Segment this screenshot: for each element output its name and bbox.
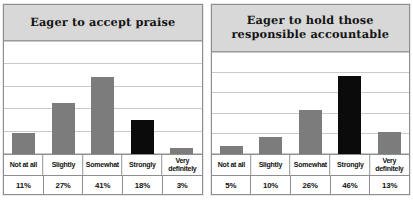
category-label-very-definitely: Very definitely	[164, 155, 201, 175]
axis-table: Not at all Slightly Somewhat Strongly Ve…	[212, 154, 410, 194]
category-label-row: Not at all Slightly Somewhat Strongly Ve…	[4, 155, 202, 176]
category-label-strongly: Strongly	[124, 155, 162, 175]
category-label-very-definitely: Very definitely	[371, 155, 408, 175]
axis-table: Not at all Slightly Somewhat Strongly Ve…	[4, 154, 202, 194]
category-label-slightly: Slightly	[44, 155, 82, 175]
bar-strongly	[338, 76, 361, 154]
chart-title-band: Eager to hold those responsible accounta…	[212, 5, 410, 52]
value-label-very-definitely: 3%	[163, 176, 202, 194]
bar-slot-very-definitely	[370, 52, 410, 154]
bar-somewhat	[299, 110, 322, 154]
chart-title-line-1: Eager to hold those	[247, 13, 374, 27]
bar-group	[4, 41, 202, 154]
bar-slot-somewhat	[83, 41, 123, 154]
bar-somewhat	[91, 77, 114, 154]
plot-area	[4, 41, 202, 154]
bar-group	[212, 52, 410, 154]
value-label-strongly: 46%	[331, 176, 371, 194]
bar-slot-strongly	[330, 52, 370, 154]
chart-title: Eager to accept praise	[24, 16, 181, 30]
chart-title: Eager to hold those responsible accounta…	[225, 14, 395, 42]
bar-slot-slightly	[251, 52, 291, 154]
value-label-not-at-all: 5%	[212, 176, 252, 194]
bar-very-definitely	[378, 132, 401, 154]
bar-slot-very-definitely	[162, 41, 202, 154]
bar-slot-strongly	[123, 41, 163, 154]
chart-title-line-2: responsible accountable	[231, 27, 389, 41]
value-label-somewhat: 41%	[83, 176, 123, 194]
value-label-very-definitely: 13%	[370, 176, 409, 194]
bar-not-at-all	[12, 133, 35, 154]
category-label-slightly: Slightly	[252, 155, 290, 175]
plot-area	[212, 52, 410, 154]
bar-slightly	[52, 103, 75, 154]
chart-title-band: Eager to accept praise	[4, 5, 202, 41]
bar-slightly	[259, 137, 282, 154]
value-label-not-at-all: 11%	[4, 176, 44, 194]
bar-slot-slightly	[44, 41, 84, 154]
bar-strongly	[131, 120, 154, 154]
bar-slot-not-at-all	[4, 41, 44, 154]
value-label-slightly: 10%	[251, 176, 291, 194]
bar-slot-somewhat	[291, 52, 331, 154]
value-label-somewhat: 26%	[291, 176, 331, 194]
bar-not-at-all	[220, 146, 243, 154]
category-label-somewhat: Somewhat	[84, 155, 122, 175]
chart-sheet: Eager to accept praise	[0, 0, 413, 200]
value-label-slightly: 27%	[44, 176, 84, 194]
bar-very-definitely	[170, 148, 193, 154]
value-label-row: 5% 10% 26% 46% 13%	[212, 176, 410, 194]
chart-panel-eager-to-hold-those-responsible-accountable: Eager to hold those responsible accounta…	[211, 4, 411, 195]
category-label-strongly: Strongly	[331, 155, 369, 175]
category-label-not-at-all: Not at all	[212, 155, 250, 175]
category-label-row: Not at all Slightly Somewhat Strongly Ve…	[212, 155, 410, 176]
value-label-strongly: 18%	[123, 176, 163, 194]
bar-slot-not-at-all	[212, 52, 252, 154]
value-label-row: 11% 27% 41% 18% 3%	[4, 176, 202, 194]
category-label-somewhat: Somewhat	[292, 155, 330, 175]
category-label-not-at-all: Not at all	[5, 155, 43, 175]
chart-panel-eager-to-accept-praise: Eager to accept praise	[3, 4, 203, 195]
